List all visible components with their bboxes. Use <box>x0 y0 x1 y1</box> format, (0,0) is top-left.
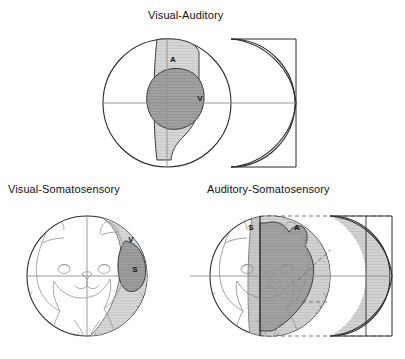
region-label-somatosensory: S <box>248 223 254 232</box>
visual-field-region <box>147 68 204 129</box>
region-label-visual: V <box>197 94 203 103</box>
panel-auditory-somatosensory: Auditory-Somatosensory <box>190 180 405 359</box>
diagram-visual-somatosensory: V S <box>0 180 200 359</box>
diagram-visual-auditory: A V <box>0 0 405 180</box>
panel-visual-somatosensory: Visual-Somatosensory <box>0 180 200 359</box>
region-label-visual: V <box>128 235 134 244</box>
diagram-auditory-somatosensory: S A <box>190 180 405 359</box>
region-label-auditory: A <box>294 223 300 232</box>
region-label-auditory: A <box>170 55 176 64</box>
figure-root: Visual-Auditory <box>0 0 405 359</box>
region-label-somatosensory: S <box>132 265 138 274</box>
panel-visual-auditory: Visual-Auditory <box>0 0 405 180</box>
